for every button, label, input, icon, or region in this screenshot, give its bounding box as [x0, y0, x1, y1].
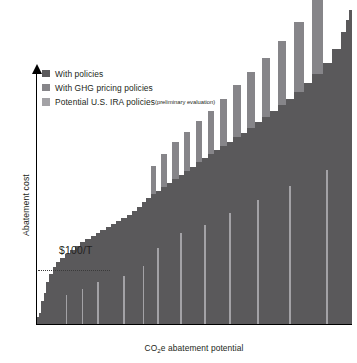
bar-segment-ghg-pricing — [262, 58, 270, 118]
x-axis-line — [36, 324, 352, 325]
bar-segment-ghg-pricing — [151, 166, 156, 195]
bar-segment-ghg-pricing — [294, 22, 304, 92]
bar-segment-ghg-pricing — [208, 111, 215, 154]
bar-segment-ira-policies — [180, 233, 182, 323]
bar-segment-ira-policies — [229, 213, 231, 324]
bar-segment — [312, 74, 323, 323]
legend-item-note: (preliminary evaluation) — [155, 99, 215, 105]
bar-segment — [304, 83, 312, 323]
legend-swatch-icon — [42, 98, 50, 106]
bar-segment-ira-policies — [204, 225, 206, 324]
x-axis-label-prefix: CO — [145, 343, 158, 353]
bar-segment-ghg-pricing — [172, 142, 179, 179]
bar-segment-ira-policies — [82, 289, 83, 324]
bar-segment — [294, 92, 304, 324]
bar-segment-ira-policies — [123, 276, 125, 323]
bar-segment — [332, 49, 341, 324]
legend-item-with-policies: With policies — [42, 69, 215, 78]
x-axis-label-subscript: 2 — [157, 347, 161, 354]
threshold-label: $100/T — [59, 245, 93, 256]
legend-item-label: Potential U.S. IRA policies — [55, 97, 155, 107]
x-axis-label: CO2e abatement potential — [36, 343, 352, 353]
legend-swatch-icon — [42, 84, 50, 92]
legend-swatch-icon — [42, 70, 50, 78]
legend-item-label: With policies — [55, 69, 103, 79]
bar-segment-ira-policies — [257, 200, 259, 323]
bar-segment — [220, 146, 227, 324]
bar-segment — [247, 128, 255, 324]
abatement-cost-curve-chart: Abatement cost CO2e abatement potential … — [0, 0, 357, 363]
bar-segment-ira-policies — [97, 282, 99, 323]
bar-segment-ira-policies — [289, 186, 291, 324]
bar-segment — [208, 154, 215, 323]
bar-segment-ira-policies — [157, 248, 159, 324]
plot-area — [37, 10, 352, 324]
legend-item-label: With GHG pricing policies — [55, 83, 153, 93]
bar-segment-ghg-pricing — [278, 41, 287, 105]
bar-segment — [262, 117, 270, 323]
bar-segment-ghg-pricing — [184, 132, 190, 171]
bar-segment-ira-policies — [326, 170, 328, 324]
bar-segment — [172, 179, 179, 324]
y-axis-label: Abatement cost — [21, 145, 31, 265]
bar-segment — [349, 10, 352, 324]
legend: With policies With GHG pricing policies … — [42, 69, 215, 112]
bar-segment — [270, 111, 277, 323]
bar-segment-ghg-pricing — [196, 121, 202, 162]
bar-segment-ghg-pricing — [247, 72, 255, 127]
bar-segment — [233, 137, 240, 324]
bar-segment-ghg-pricing — [312, 0, 323, 74]
legend-item-ira-policies: Potential U.S. IRA policies(preliminary … — [42, 97, 215, 106]
legend-item-ghg-pricing: With GHG pricing policies — [42, 83, 215, 92]
bar-segment — [278, 105, 287, 324]
x-axis-label-suffix: e abatement potential — [161, 343, 244, 353]
threshold-dotted-line — [38, 270, 110, 271]
bar-segment-ghg-pricing — [220, 99, 227, 146]
bar-segment-ghg-pricing — [233, 85, 240, 136]
bar-segment-ira-policies — [66, 295, 67, 324]
bar-segment-ira-policies — [143, 266, 145, 323]
bar-segment — [241, 133, 248, 324]
